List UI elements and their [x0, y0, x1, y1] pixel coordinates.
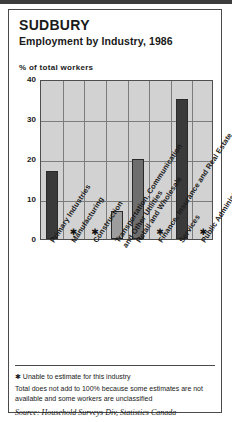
x-axis-labels: Primary IndustriesManufacturingConstruct…	[40, 240, 232, 380]
chart-card: SUDBURY Employment by Industry, 1986 % o…	[8, 9, 222, 413]
y-axis-label: % of total workers	[19, 63, 93, 72]
source-line: Source: Household Surveys Div, Statistic…	[15, 408, 217, 418]
y-tick-label-0: 0	[19, 236, 36, 244]
title-block: SUDBURY Employment by Industry, 1986	[19, 18, 173, 48]
asterisk-icon: ✱	[15, 373, 21, 381]
footnote-missing: ✱ Unable to estimate for this industry	[15, 372, 217, 383]
page-title: SUDBURY	[19, 18, 173, 33]
chart-page: SUDBURY Employment by Industry, 1986 % o…	[0, 0, 232, 422]
y-tick-label-30: 30	[19, 116, 36, 124]
chart-subtitle: Employment by Industry, 1986	[19, 35, 173, 48]
footnote-divider	[15, 365, 215, 366]
y-tick-label-40: 40	[19, 76, 36, 84]
footnote-missing-text: Unable to estimate for this industry	[23, 373, 131, 380]
bar-column	[41, 81, 63, 239]
y-tick-label-20: 20	[19, 156, 36, 164]
page-top-gap	[0, 4, 232, 6]
y-tick-label-10: 10	[19, 196, 36, 204]
footnote-total: Total does not add to 100% because some …	[15, 384, 217, 403]
